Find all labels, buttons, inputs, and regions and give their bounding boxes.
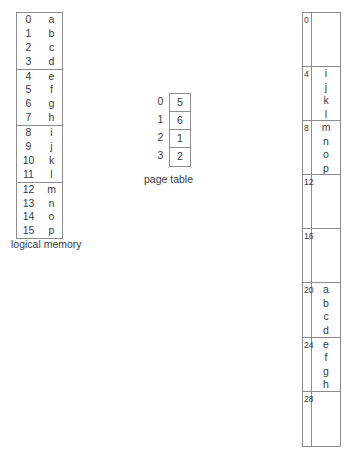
logical-memory-index: 7 — [17, 111, 41, 125]
physical-memory-address: 16 — [303, 229, 312, 282]
physical-memory-cell: b — [312, 297, 340, 311]
logical-memory-row: 0 a — [17, 13, 62, 27]
physical-memory-address-text: 12 — [304, 177, 314, 187]
physical-memory-cell — [312, 432, 340, 446]
page-table-label: page table — [144, 173, 193, 185]
physical-memory-cell — [312, 26, 340, 39]
logical-memory-row: 7 h — [17, 111, 62, 125]
physical-memory-cell: e — [312, 338, 340, 352]
logical-memory-figure: 0 a 1 b 2 c 3 d 4 e 5 f — [16, 12, 63, 239]
physical-memory-cell: g — [312, 365, 340, 379]
logical-memory-row: 11 l — [17, 168, 62, 182]
page-table-index: 0 — [152, 93, 169, 111]
physical-memory-frame: 28 — [303, 392, 340, 446]
physical-memory-cell: c — [312, 310, 340, 324]
physical-memory-frame: 4 i j k l — [303, 67, 340, 121]
page-table-index: 1 — [152, 111, 169, 129]
physical-memory-cells — [312, 13, 340, 66]
physical-memory-cell: k — [312, 94, 340, 108]
logical-memory-index: 5 — [17, 83, 41, 97]
physical-memory-cells: a b c d — [312, 283, 340, 336]
logical-memory-value: c — [41, 41, 62, 55]
physical-memory-address-text: 20 — [304, 285, 314, 295]
logical-memory-page-0: 0 a 1 b 2 c 3 d — [17, 13, 62, 70]
physical-memory-frame: 24 e f g h — [303, 338, 340, 392]
physical-memory-cell — [312, 269, 340, 282]
logical-memory-row: 10 k — [17, 154, 62, 168]
logical-memory-index: 1 — [17, 27, 41, 41]
physical-memory-cell: h — [312, 378, 340, 392]
physical-memory-cell: m — [312, 121, 340, 135]
logical-memory-index: 9 — [17, 140, 41, 154]
physical-memory-address-text: 16 — [304, 231, 314, 241]
logical-memory-value: h — [41, 111, 62, 125]
physical-memory-cell — [312, 256, 340, 269]
physical-memory-cell — [312, 53, 340, 66]
logical-memory-value: j — [41, 140, 62, 154]
physical-memory-cell — [312, 392, 340, 406]
physical-memory-address-text: 28 — [304, 394, 314, 404]
logical-memory-value: o — [41, 210, 62, 224]
page-table-figure: 0 1 2 3 5 6 1 2 page table — [152, 93, 191, 167]
logical-memory-row: 12 m — [17, 183, 62, 197]
page-table-frame-column: 5 6 1 2 — [169, 93, 191, 167]
logical-memory-row: 4 e — [17, 70, 62, 84]
logical-memory-page-2: 8 i 9 j 10 k 11 l — [17, 126, 62, 183]
physical-memory-cell — [312, 229, 340, 242]
logical-memory-index: 10 — [17, 154, 41, 168]
page-table-wrapper: 0 1 2 3 5 6 1 2 — [152, 93, 191, 167]
logical-memory-label: logical memory — [11, 238, 82, 250]
physical-memory-cell: p — [312, 162, 340, 176]
page-table-frame-cell: 1 — [170, 130, 190, 148]
physical-memory-cells — [312, 229, 340, 282]
logical-memory-value: p — [41, 224, 62, 238]
physical-memory-address: 28 — [303, 392, 312, 446]
physical-memory-address: 24 — [303, 338, 312, 391]
logical-memory-row: 8 i — [17, 126, 62, 140]
logical-memory-row: 14 o — [17, 210, 62, 224]
logical-memory-value: m — [41, 183, 62, 197]
logical-memory-value: l — [41, 168, 62, 182]
physical-memory-cells — [312, 392, 340, 446]
logical-memory-value: g — [41, 97, 62, 111]
logical-memory-index: 12 — [17, 183, 41, 197]
logical-memory-index: 15 — [17, 224, 41, 238]
logical-memory-index: 8 — [17, 126, 41, 140]
physical-memory-cell: l — [312, 108, 340, 122]
physical-memory-cell — [312, 189, 340, 202]
logical-memory-index: 11 — [17, 168, 41, 182]
physical-memory-frame: 8 m n o p — [303, 121, 340, 175]
physical-memory-cell — [312, 243, 340, 256]
physical-memory-address: 12 — [303, 175, 312, 228]
physical-memory-cells: i j k l — [312, 67, 340, 120]
logical-memory-row: 9 j — [17, 140, 62, 154]
logical-memory-row: 13 n — [17, 197, 62, 211]
page-table-index-column: 0 1 2 3 — [152, 93, 169, 167]
physical-memory-cell — [312, 405, 340, 419]
logical-memory-table: 0 a 1 b 2 c 3 d 4 e 5 f — [16, 12, 63, 239]
logical-memory-row: 1 b — [17, 27, 62, 41]
physical-memory-address: 4 — [303, 67, 312, 120]
logical-memory-value: n — [41, 197, 62, 211]
physical-memory-address-text: 8 — [304, 123, 309, 133]
physical-memory-cells: m n o p — [312, 121, 340, 174]
page-table-index: 2 — [152, 129, 169, 147]
physical-memory-address: 20 — [303, 283, 312, 336]
physical-memory-cell: f — [312, 351, 340, 365]
physical-memory-cells — [312, 175, 340, 228]
logical-memory-value: i — [41, 126, 62, 140]
logical-memory-row: 3 d — [17, 55, 62, 69]
logical-memory-row: 15 p — [17, 224, 62, 238]
physical-memory-cell: d — [312, 324, 340, 338]
logical-memory-index: 14 — [17, 210, 41, 224]
logical-memory-index: 0 — [17, 13, 41, 27]
logical-memory-value: d — [41, 55, 62, 69]
logical-memory-row: 5 f — [17, 83, 62, 97]
page-table-index: 3 — [152, 147, 169, 165]
physical-memory-frame: 20 a b c d — [303, 283, 340, 337]
physical-memory-frame: 16 — [303, 229, 340, 283]
physical-memory-cell: n — [312, 135, 340, 149]
logical-memory-row: 6 g — [17, 97, 62, 111]
physical-memory-address-text: 24 — [304, 340, 314, 350]
page-table-frame-cell: 2 — [170, 148, 190, 166]
